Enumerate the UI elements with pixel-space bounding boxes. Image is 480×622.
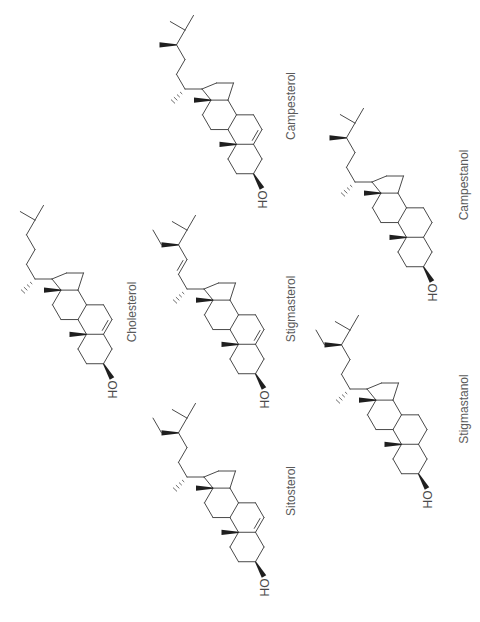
bond-C11-C12 (205, 503, 214, 518)
bond-C11-C12 (205, 315, 214, 330)
bond-C20-C22 (342, 374, 351, 389)
bond-C2-C1 (393, 459, 402, 474)
hydroxyl-label: HO (256, 190, 270, 208)
bond-C14-C8 (230, 300, 239, 315)
bond-C4-C3 (254, 159, 263, 174)
c21-methyl-hashed-bond-tick (182, 480, 184, 482)
c18-methyl-wedge-bond (364, 191, 381, 196)
c21-methyl-hashed-bond-tick (179, 483, 182, 486)
bond-C1-C10 (393, 444, 402, 459)
bond-C11-C12 (53, 305, 62, 320)
molecule-campestanol: HO (330, 108, 441, 301)
bond-C6-C7 (104, 305, 113, 320)
bond-C24-C25 (347, 123, 356, 138)
bond-C14-C8 (228, 100, 237, 115)
c19-methyl-wedge-bond (385, 442, 402, 447)
c21-methyl-hashed-bond-tick (341, 193, 345, 197)
c19-methyl-wedge-bond (390, 235, 407, 240)
bond-C2-C1 (78, 349, 87, 364)
bond-C17-C13 (204, 477, 213, 488)
bond-C17-C13 (52, 279, 61, 290)
c21-methyl-hashed-bond-tick (24, 287, 27, 290)
bond-C6-C7 (256, 503, 265, 518)
molecule-stigmastanol: HO (316, 315, 435, 508)
bond-C17-C13 (202, 89, 211, 100)
bond-C14-C8 (393, 400, 402, 415)
skeleton (316, 315, 429, 489)
bond-C4-C3 (256, 359, 265, 374)
bond-C14-C15 (393, 383, 399, 400)
bond-C24-C25 (179, 418, 188, 433)
c24-substituent-wedge-bond (325, 342, 342, 347)
c24-substituent-wedge-bond (162, 242, 179, 247)
c21-methyl-hashed-bond-tick (173, 300, 177, 304)
bond-C25-C26 (20, 212, 35, 221)
bond-C4-C3 (424, 252, 433, 267)
bond-C1-C10 (230, 344, 239, 359)
c18-methyl-wedge-bond (359, 398, 376, 403)
compound-label-cholesterol: Cholesterol (125, 282, 139, 343)
bond-C17-C13 (372, 182, 381, 193)
bond-C20-C22 (347, 167, 356, 182)
bond-C9-C10 (228, 130, 237, 145)
bond-C16-C17 (204, 471, 219, 477)
sterol-structures-figure: HO HO HO HO HO HO Cholesterol Sitosterol… (0, 0, 480, 622)
bond-C5-C4 (256, 532, 265, 547)
c21-methyl-hashed-bond-tick (30, 282, 32, 284)
bond-C9-C10 (78, 320, 87, 335)
bond-C2-C1 (230, 547, 239, 562)
bond-C22-C23 (347, 153, 356, 168)
bond-C5-C4 (256, 344, 265, 359)
bond-C25-C27 (355, 108, 364, 123)
bond-C12-C13 (368, 400, 377, 415)
bond-C5-C4 (104, 334, 113, 349)
c21-methyl-hashed-bond-tick (182, 292, 184, 294)
bond-C12-C13 (203, 100, 212, 115)
bond-C25-C27 (185, 15, 194, 30)
bond-C4-C3 (256, 547, 265, 562)
bond-C22-C23 (27, 250, 36, 265)
c21-methyl-hashed-bond-tick (174, 97, 177, 100)
bond-C5-C6 (424, 223, 433, 238)
bond-C17-C13 (367, 389, 376, 400)
bond-C16-C17 (367, 383, 382, 389)
bond-C23-C24 (179, 433, 188, 448)
bond-C23-C24 (342, 345, 351, 360)
c21-methyl-hashed-bond-tick (177, 95, 180, 98)
bond-C6-C7 (424, 208, 433, 223)
c21-methyl-hashed-bond-tick (180, 92, 182, 94)
c19-methyl-wedge-bond (70, 332, 87, 337)
c18-methyl-wedge-bond (44, 288, 61, 293)
c19-methyl-wedge-bond (222, 342, 239, 347)
bond-C8-C9 (78, 305, 87, 320)
c3-hydroxyl-wedge-bond (103, 363, 114, 379)
bond-C5-C4 (419, 444, 428, 459)
bond-C11-C12 (203, 115, 212, 130)
bond-C25-C27 (35, 205, 44, 220)
bond-C14-C8 (78, 290, 87, 305)
c21-methyl-hashed-bond-tick (179, 295, 182, 298)
c21-methyl-hashed-bond-tick (345, 392, 347, 394)
bond-C25-C27 (187, 215, 196, 230)
bond-C14-C8 (398, 193, 407, 208)
skeleton (20, 205, 114, 379)
bond-C25-C26 (170, 22, 185, 31)
bond-C16-C17 (52, 273, 67, 279)
c24-ethyl-bond (153, 418, 162, 433)
bond-C11-C12 (368, 415, 377, 430)
bond-C9-C10 (393, 430, 402, 445)
compound-label-stigmasterol: Stigmasterol (284, 276, 298, 343)
bond-C12-C13 (205, 300, 214, 315)
c3-hydroxyl-wedge-bond (255, 373, 266, 389)
skeleton (330, 108, 435, 282)
c24-ethyl-bond (153, 230, 162, 245)
compound-label-stigmastanol: Stigmastanol (457, 374, 471, 443)
bond-C22-C23 (177, 60, 186, 75)
c18-methyl-wedge-bond (194, 98, 211, 103)
c21-methyl-hashed-bond-tick (176, 485, 179, 488)
skeleton (153, 215, 266, 389)
bond-C25-C26 (340, 115, 355, 124)
bond-C25-C26 (172, 222, 187, 231)
compound-label-campesterol: Campesterol (284, 72, 298, 140)
c21-methyl-hashed-bond-tick (342, 395, 345, 398)
